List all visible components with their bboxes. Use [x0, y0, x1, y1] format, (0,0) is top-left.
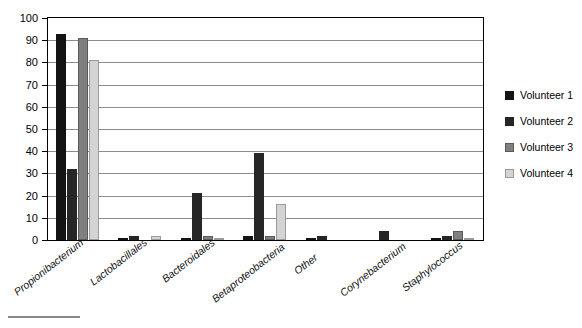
bar [306, 238, 316, 240]
bar-group [181, 18, 235, 240]
bar-group [306, 18, 360, 240]
bar-groups [48, 18, 483, 240]
bar [56, 34, 66, 240]
x-axis-tick-label: Staphylococcus [400, 240, 465, 294]
bar-group [243, 18, 297, 240]
bar [214, 238, 224, 240]
y-axis-tick-label: 80 [26, 57, 38, 68]
legend-item-label: Volunteer 1 [520, 89, 573, 101]
x-axis-labels: PropionibacteriumLactobacillalesBacteroi… [0, 243, 582, 328]
plot-area [47, 17, 484, 241]
bar [265, 236, 275, 240]
x-axis-tick-label: Propionibacterium [12, 237, 85, 298]
bar-group [56, 18, 110, 240]
y-axis-tick-label: 30 [26, 168, 38, 179]
y-axis-tick-label: 40 [26, 146, 38, 157]
bar [464, 238, 474, 240]
bar [243, 236, 253, 240]
x-axis-tick-label: Lactobacillales [88, 237, 149, 288]
bar [78, 38, 88, 240]
bar [192, 193, 202, 240]
bar [67, 169, 77, 240]
y-axis-tick-label: 90 [26, 35, 38, 46]
y-axis-tick-label: 60 [26, 101, 38, 112]
legend-item-label: Volunteer 3 [520, 141, 573, 153]
legend-swatch-icon [505, 91, 514, 100]
x-axis-tick-label: Bacteroidales [160, 237, 217, 285]
bar [151, 236, 161, 240]
bar [317, 236, 327, 240]
scan-artifact-line [8, 316, 80, 318]
bar [181, 238, 191, 240]
legend-item[interactable]: Volunteer 3 [505, 134, 582, 160]
bar-group [368, 18, 422, 240]
y-axis-tick-label: 70 [26, 79, 38, 90]
legend-swatch-icon [505, 117, 514, 126]
y-axis-tick-label: 20 [26, 190, 38, 201]
y-axis-tick-label: 10 [26, 212, 38, 223]
bar [276, 204, 286, 240]
x-axis-tick-label: Corynebacterium [338, 241, 408, 299]
bar-group [118, 18, 172, 240]
bar [442, 236, 452, 240]
y-axis-tick-label: 100 [20, 13, 38, 24]
y-axis: 0102030405060708090100 [0, 17, 44, 241]
legend-item[interactable]: Volunteer 2 [505, 108, 582, 134]
x-axis-tick-label: Other [292, 252, 319, 277]
legend: Volunteer 1Volunteer 2Volunteer 3Volunte… [505, 82, 582, 186]
y-axis-tick-label: 50 [26, 124, 38, 135]
legend-item[interactable]: Volunteer 4 [505, 160, 582, 186]
bar [118, 238, 128, 240]
bar [379, 231, 389, 240]
x-axis-tick-label: Betaproteobacteria [210, 241, 287, 304]
bar [431, 238, 441, 240]
legend-item[interactable]: Volunteer 1 [505, 82, 582, 108]
bar-group [431, 18, 485, 240]
bar-chart: 0102030405060708090100 Propionibacterium… [0, 0, 582, 328]
legend-item-label: Volunteer 2 [520, 115, 573, 127]
bar [254, 153, 264, 240]
bar [89, 60, 99, 240]
legend-item-label: Volunteer 4 [520, 167, 573, 179]
legend-swatch-icon [505, 143, 514, 152]
legend-swatch-icon [505, 169, 514, 178]
